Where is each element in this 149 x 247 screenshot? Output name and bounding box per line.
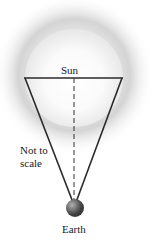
sun-label: Sun [61,64,78,76]
not-to-scale-label: Not to scale [20,144,60,170]
earth-icon [66,199,84,217]
diagram-canvas [0,0,149,247]
earth-label: Earth [62,223,86,235]
sun-earth-parallax-diagram: Sun Not to scale Earth [0,0,149,247]
